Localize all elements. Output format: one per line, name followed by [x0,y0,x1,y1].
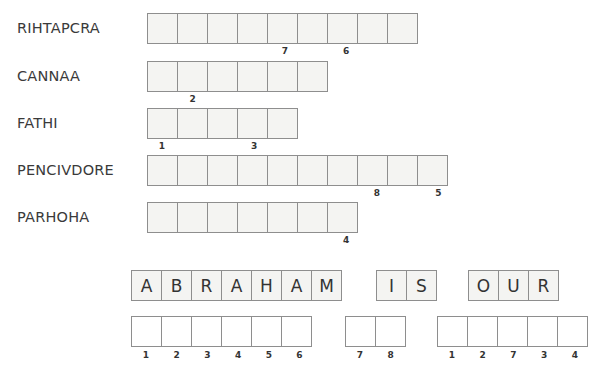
letter-box[interactable] [267,155,298,186]
letter-box[interactable] [267,61,298,92]
phrase-word: OUR [468,270,558,301]
phrase-letter-box: I [376,270,407,301]
letter-box[interactable] [267,202,298,233]
letter-box[interactable] [177,155,208,186]
letter-box[interactable] [327,13,358,44]
letter-box[interactable] [357,155,388,186]
answer-box-row [147,61,327,92]
letter-box[interactable] [237,155,268,186]
phrase-letter-box: R [528,270,559,301]
answer-box-row [147,155,447,186]
phrase-letter-box: R [191,270,222,301]
answer-number: 1 [131,350,161,360]
letter-box[interactable] [327,155,358,186]
answer-number: 8 [376,350,406,360]
phrase-letter-box: M [311,270,342,301]
answer-letter-box[interactable] [557,316,588,347]
letter-box[interactable] [237,13,268,44]
answer-letter-box[interactable] [467,316,498,347]
answer-letter-box[interactable] [497,316,528,347]
answer-letter-box[interactable] [437,316,468,347]
letter-box[interactable] [177,61,208,92]
clue-number: 6 [331,46,361,56]
phrase-word: ABRAHAM [131,270,341,301]
letter-box[interactable] [207,108,238,139]
clue-number: 3 [239,141,269,151]
phrase-letter-box: A [131,270,162,301]
letter-box[interactable] [207,202,238,233]
phrase-word: IS [376,270,436,301]
clue-number: 5 [423,188,453,198]
letter-box[interactable] [237,108,268,139]
letter-box[interactable] [417,155,448,186]
letter-box[interactable] [387,155,418,186]
letter-box[interactable] [387,13,418,44]
answer-letter-box[interactable] [161,316,192,347]
scrambled-word-label: PARHOHA [17,209,89,225]
clue-number: 1 [147,141,177,151]
phrase-letter-box: O [468,270,499,301]
letter-box[interactable] [297,155,328,186]
answer-group [345,316,405,347]
answer-letter-box[interactable] [251,316,282,347]
letter-box[interactable] [357,13,388,44]
clue-number: 7 [270,46,300,56]
clue-number: 2 [178,94,208,104]
answer-letter-box[interactable] [345,316,376,347]
letter-box[interactable] [147,108,178,139]
answer-number: 3 [529,350,559,360]
phrase-letter-box: S [406,270,437,301]
answer-number: 4 [223,350,253,360]
letter-box[interactable] [297,202,328,233]
letter-box[interactable] [237,61,268,92]
letter-box[interactable] [147,13,178,44]
answer-number: 7 [345,350,375,360]
scrambled-word-label: CANNAA [17,68,80,84]
answer-letter-box[interactable] [131,316,162,347]
phrase-letter-box: A [281,270,312,301]
answer-number: 4 [560,350,590,360]
letter-box[interactable] [177,13,208,44]
answer-letter-box[interactable] [527,316,558,347]
scrambled-word-label: FATHI [17,115,58,131]
answer-group [437,316,587,347]
scrambled-word-label: PENCIVDORE [17,162,114,178]
letter-box[interactable] [147,61,178,92]
letter-box[interactable] [207,61,238,92]
letter-box[interactable] [147,202,178,233]
letter-box[interactable] [267,108,298,139]
answer-number: 3 [192,350,222,360]
phrase-letter-box: B [161,270,192,301]
letter-box[interactable] [207,155,238,186]
letter-box[interactable] [237,202,268,233]
answer-number: 2 [162,350,192,360]
answer-letter-box[interactable] [191,316,222,347]
clue-number: 4 [331,235,361,245]
answer-letter-box[interactable] [281,316,312,347]
answer-box-row [147,202,357,233]
letter-box[interactable] [177,202,208,233]
phrase-letter-box: H [251,270,282,301]
scrambled-word-label: RIHTAPCRA [17,20,100,36]
answer-box-row [147,108,297,139]
phrase-letter-box: U [498,270,529,301]
answer-number: 1 [437,350,467,360]
letter-box[interactable] [297,61,328,92]
answer-box-row [147,13,417,44]
clue-number: 8 [362,188,392,198]
letter-box[interactable] [177,108,208,139]
letter-box[interactable] [327,202,358,233]
letter-box[interactable] [297,13,328,44]
answer-group [131,316,311,347]
answer-letter-box[interactable] [221,316,252,347]
phrase-letter-box: A [221,270,252,301]
letter-box[interactable] [267,13,298,44]
letter-box[interactable] [147,155,178,186]
letter-box[interactable] [207,13,238,44]
answer-number: 7 [498,350,528,360]
answer-letter-box[interactable] [375,316,406,347]
answer-number: 6 [285,350,315,360]
answer-number: 5 [254,350,284,360]
answer-number: 2 [468,350,498,360]
